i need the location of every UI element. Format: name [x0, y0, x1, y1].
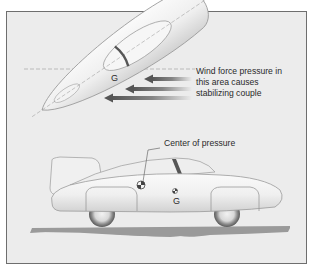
side-view-cg-label: G	[173, 196, 180, 206]
diagram-illustration	[0, 0, 315, 274]
center-of-pressure-marker	[137, 181, 145, 189]
center-of-pressure-label: Center of pressure	[164, 138, 235, 149]
wind-force-annotation: Wind force pressure in this area causes …	[196, 66, 306, 99]
annotation-line: Wind force pressure in	[196, 66, 306, 77]
side-view-vehicle	[30, 148, 290, 237]
center-of-gravity-marker	[173, 189, 178, 194]
top-view-cg-label: G	[111, 73, 118, 83]
annotation-line: stabilizing couple	[196, 88, 306, 99]
annotation-line: this area causes	[196, 77, 306, 88]
